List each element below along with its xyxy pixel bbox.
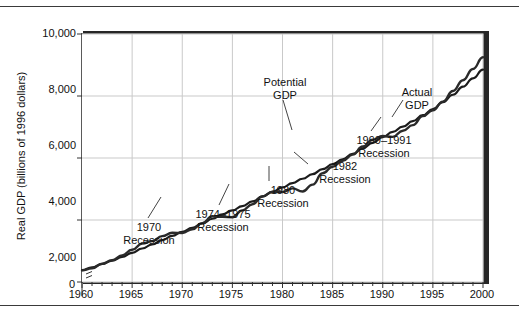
annotation-actual-gdp: Actual GDP: [390, 86, 444, 111]
annotation-recession-1970-line1: 1970: [109, 221, 189, 234]
figure-container: Real GDP (billions of 1996 dollars) 10,0…: [0, 0, 519, 318]
annotation-recession-1970: 1970 Recession: [109, 221, 189, 246]
annotation-recession-1982-line2: Recession: [310, 173, 380, 186]
annotation-potential-gdp-line2: GDP: [248, 89, 322, 102]
annotation-recession-1980-line2: Recession: [248, 197, 318, 210]
annotation-recession-1990-1991-line2: Recession: [344, 147, 424, 160]
axis-ticks: [77, 34, 483, 296]
annotation-actual-gdp-line1: Actual: [390, 86, 444, 99]
annotation-recession-1982-line1: 1982: [310, 160, 380, 173]
annotation-recession-1974-1975-line2: Recession: [184, 221, 262, 234]
annotation-recession-1980-line1: 1980: [248, 184, 318, 197]
annotation-potential-gdp: Potential GDP: [248, 76, 322, 101]
annotation-potential-gdp-line1: Potential: [248, 76, 322, 89]
annotation-recession-1990-1991: 1990–1991 Recession: [344, 134, 424, 159]
annotation-recession-1974-1975-line1: 1974–1975: [184, 208, 262, 221]
annotation-recession-1970-line2: Recession: [109, 234, 189, 247]
annotation-recession-1980: 1980 Recession: [248, 184, 318, 209]
annotation-recession-1974-1975: 1974–1975 Recession: [184, 208, 262, 233]
chart-svg: [0, 0, 519, 318]
annotation-recession-1982: 1982 Recession: [310, 160, 380, 185]
y-axis-break-icon: [86, 272, 92, 279]
annotation-actual-gdp-line2: GDP: [390, 99, 444, 112]
annotation-recession-1990-1991-line1: 1990–1991: [344, 134, 424, 147]
